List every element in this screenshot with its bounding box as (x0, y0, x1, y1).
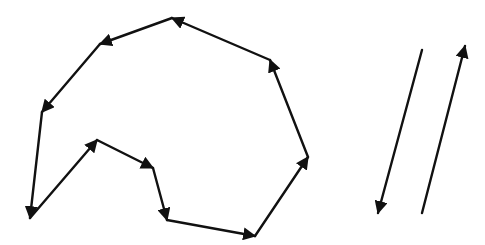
polygon-edge-arrow (167, 220, 255, 236)
vector-diagram (0, 0, 485, 245)
polygon-edge-arrow (30, 140, 97, 218)
polygon-edge-arrow (30, 112, 42, 218)
polygon-edge-arrow (255, 157, 308, 236)
vector-up-arrow (422, 46, 465, 213)
vector-down-arrow (378, 50, 422, 213)
polygon-edge-arrow (153, 168, 167, 220)
polygon-edge-arrow (270, 60, 308, 157)
closed-polygon-path (30, 18, 308, 236)
parallel-vectors (378, 46, 465, 213)
polygon-edge-arrow (100, 18, 172, 44)
polygon-edge-arrow (97, 140, 153, 168)
polygon-edge-arrow (42, 44, 100, 112)
polygon-edge-arrow (172, 18, 270, 60)
